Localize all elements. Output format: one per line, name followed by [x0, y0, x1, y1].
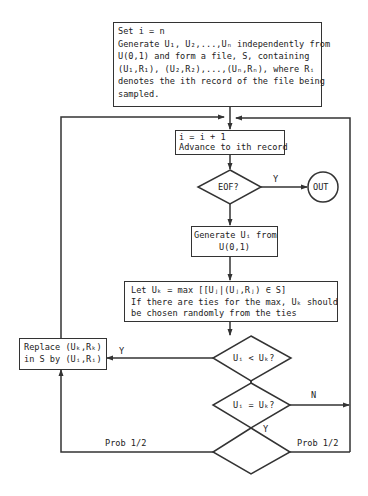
- init-line-3: U(0,1) and form a file, S, containing: [118, 50, 317, 63]
- eof-label: EOF?: [218, 182, 239, 192]
- equal-yes-label: Y: [263, 424, 268, 434]
- coin-diamond: [213, 428, 290, 474]
- out-label: OUT: [313, 182, 329, 192]
- generate-line-1: Generate Uᵢ from: [194, 229, 275, 241]
- let-line-2: If there are ties for the max, Uₖ should: [131, 297, 331, 309]
- let-line-1: Let Uₖ = max [[Uⱼ|(Uⱼ,Rⱼ) ∈ S]: [131, 285, 331, 297]
- replace-line-1: Replace (Uₖ,Rₖ): [24, 341, 102, 353]
- less-yes-label: Y: [119, 346, 124, 356]
- coin-right-label: Prob 1/2: [297, 438, 338, 448]
- init-line-4: (U₁,R₁), (U₂,R₂),...,(Uₙ,Rₙ), where Rᵢ: [118, 63, 317, 76]
- let-max-box: Let Uₖ = max [[Uⱼ|(Uⱼ,Rⱼ) ∈ S] If there …: [124, 281, 338, 322]
- equal-no-label: N: [311, 390, 316, 400]
- init-line-1: Set i = n: [118, 25, 317, 38]
- eof-yes-label: Y: [273, 174, 278, 184]
- advance-box: i = i + 1 Advance to ith record: [175, 130, 285, 155]
- replace-line-2: in S by (Uᵢ,Rᵢ): [24, 353, 102, 365]
- equal-label: Uᵢ = Uₖ?: [233, 400, 274, 410]
- init-line-2: Generate U₁, U₂,...,Uₙ independently fro…: [118, 38, 317, 51]
- generate-line-2: U(0,1): [194, 241, 275, 253]
- less-label: Uᵢ < Uₖ?: [233, 353, 274, 363]
- advance-line-1: i = i + 1: [179, 132, 281, 142]
- let-line-3: be chosen randomly from the ties: [131, 308, 331, 320]
- init-line-5: denotes the ith record of the file being: [118, 75, 317, 88]
- generate-box: Generate Uᵢ from U(0,1): [191, 226, 278, 257]
- advance-line-2: Advance to ith record: [179, 142, 281, 152]
- init-box: Set i = n Generate U₁, U₂,...,Uₙ indepen…: [113, 22, 322, 107]
- coin-left-label: Prob 1/2: [105, 438, 146, 448]
- replace-box: Replace (Uₖ,Rₖ) in S by (Uᵢ,Rᵢ): [19, 338, 107, 370]
- init-line-6: sampled.: [118, 88, 317, 101]
